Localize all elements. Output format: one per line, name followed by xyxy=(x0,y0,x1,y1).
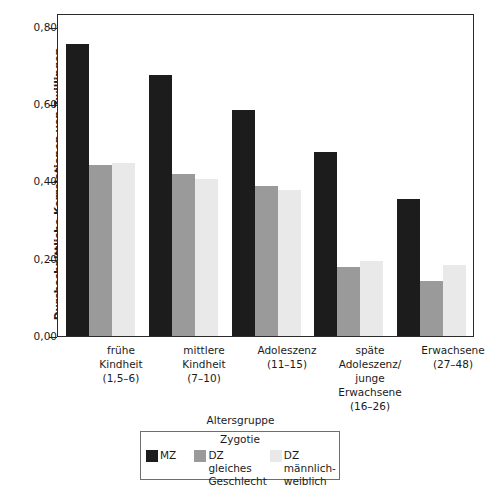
legend-swatch-mz-icon xyxy=(146,450,158,462)
x-category-4-line-0: Erwachsene xyxy=(389,343,489,357)
legend-swatch-dz-opposite-sex-icon xyxy=(270,450,282,462)
bar-dz-gleiches-geschlecht-group-0 xyxy=(89,165,112,336)
y-tick-label-060: 0,60 xyxy=(11,99,57,109)
bar-dz-männlich-weiblich-group-2 xyxy=(278,190,301,336)
bar-dz-männlich-weiblich-group-3 xyxy=(360,261,383,336)
bar-dz-gleiches-geschlecht-group-4 xyxy=(420,281,443,336)
bar-mz-group-1 xyxy=(149,75,172,336)
bar-dz-männlich-weiblich-group-0 xyxy=(112,163,135,336)
x-category-4-line-1: (27–48) xyxy=(389,357,489,371)
legend-label-dz-opposite-sex: DZ männlich- weiblich xyxy=(284,449,338,488)
y-tick-label-040: 0,40 xyxy=(11,176,57,186)
legend-label-dz-opposite-sex-line-0: DZ männlich- xyxy=(284,449,336,474)
x-category-3-line-4: (16–26) xyxy=(306,399,434,413)
x-category-4: Erwachsene (27–48) xyxy=(389,343,489,371)
x-category-3-line-2: junge xyxy=(306,371,434,385)
legend-title: Zygotie xyxy=(141,433,339,445)
legend-swatch-dz-same-sex-icon xyxy=(194,450,206,462)
x-category-1-line-2: (7–10) xyxy=(140,371,268,385)
legend-label-mz-line-0: MZ xyxy=(160,449,176,461)
x-category-3-line-3: Erwachsene xyxy=(306,385,434,399)
bar-dz-männlich-weiblich-group-1 xyxy=(195,179,218,336)
bar-dz-gleiches-geschlecht-group-1 xyxy=(172,174,195,336)
bar-mz-group-0 xyxy=(66,44,89,336)
legend-label-dz-same-sex: DZ gleiches Geschlecht xyxy=(208,449,266,488)
legend-label-dz-same-sex-line-1: Geschlecht xyxy=(208,475,266,487)
bar-dz-gleiches-geschlecht-group-3 xyxy=(337,267,360,336)
legend-item-dz-same-sex: DZ gleiches Geschlecht xyxy=(194,449,266,488)
x-axis-title: Altersgruppe xyxy=(0,414,481,426)
bar-mz-group-2 xyxy=(232,110,255,336)
legend-label-dz-same-sex-line-0: DZ gleiches xyxy=(208,449,251,474)
legend-label-mz: MZ xyxy=(160,449,176,462)
legend-label-dz-opposite-sex-line-1: weiblich xyxy=(284,475,327,487)
bar-dz-gleiches-geschlecht-group-2 xyxy=(255,186,278,336)
bars-container xyxy=(58,15,472,336)
y-tick-label-000: 0,00 xyxy=(11,331,57,341)
bar-dz-männlich-weiblich-group-4 xyxy=(443,265,466,336)
y-tick-label-080: 0,80 xyxy=(11,22,57,32)
legend-box: Zygotie MZ DZ gleiches Geschlecht DZ män… xyxy=(140,431,340,480)
legend-item-dz-opposite-sex: DZ männlich- weiblich xyxy=(270,449,338,488)
legend-items: MZ DZ gleiches Geschlecht DZ männlich- w… xyxy=(146,449,338,488)
bar-mz-group-3 xyxy=(314,152,337,336)
y-tick-label-020: 0,20 xyxy=(11,254,57,264)
legend-item-mz: MZ xyxy=(146,449,191,488)
bar-mz-group-4 xyxy=(397,199,420,336)
